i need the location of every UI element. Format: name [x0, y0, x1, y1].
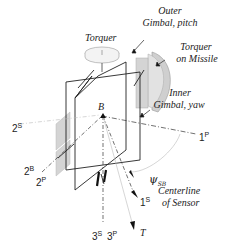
torquer-label: Torquer [85, 33, 117, 43]
outer-gimbal-label-line2: Gimbal, pitch [136, 18, 204, 28]
pivot-shafts [58, 70, 144, 184]
axis-t-label: T [140, 228, 146, 238]
outer-gimbal-label-line1: Outer [150, 6, 190, 16]
centerline-label-line1: Centerline [158, 186, 200, 196]
axis-2s-label: 2S [12, 122, 22, 134]
axis-3s-label: 3S [92, 230, 102, 242]
axis-2b-label: 2B [24, 165, 34, 177]
axis-2p-label: 2P [36, 176, 46, 188]
point-b-label: B [98, 102, 104, 112]
gimbal-diagram: Torquer Outer Gimbal, pitch Torquer on M… [0, 0, 226, 248]
centerline-label-line2: of Sensor [162, 198, 200, 208]
axis-3p-label: 3P [107, 230, 117, 242]
inner-gimbal-label-line2: Gimbal, yaw [146, 100, 212, 110]
torquer-missile-label-line2: on Missile [170, 54, 224, 64]
inner-gimbal-frame [75, 62, 126, 190]
axis-1p-label: 1P [199, 131, 209, 143]
left-bearing-plates [56, 112, 70, 176]
inner-gimbal-label-line1: Inner [160, 88, 200, 98]
axis-1s-label: 1S [140, 196, 150, 208]
torquer-missile-label-line1: Torquer [172, 42, 220, 52]
bottom-bearing-marks [97, 170, 106, 186]
